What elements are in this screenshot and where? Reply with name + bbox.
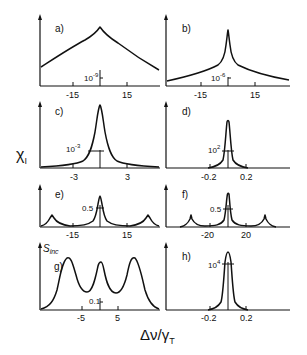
y-axis-arrow-icon	[38, 184, 42, 190]
panel-label: f)	[182, 189, 188, 200]
panel-a: a) 10-9 -15 15	[38, 14, 160, 100]
x-tick-label: -0.2	[201, 172, 217, 182]
panel-g: g) 0.1 -5 5 Sinc	[38, 242, 160, 323]
x-tick-label: -15	[66, 90, 79, 100]
x-tick-label: -15	[194, 90, 207, 100]
y-axis-arrow-icon	[38, 101, 42, 107]
panel-b: b) 10-6 -15 15	[164, 14, 290, 100]
x-tick-label: -15	[66, 230, 79, 240]
x-tick-label: 0.2	[240, 313, 253, 323]
y-axis-arrow-icon	[38, 14, 42, 20]
panel-label: a)	[55, 23, 64, 34]
x-tick-label: 15	[122, 90, 132, 100]
x-tick-label: 0.2	[240, 172, 253, 182]
panel-f: f) 0.5 -20 20	[164, 184, 290, 240]
panel-label: h)	[182, 251, 191, 262]
scale-marker: 0.5	[210, 205, 222, 214]
scale-marker: 104	[208, 259, 221, 270]
x-tick-label: -3	[70, 172, 78, 182]
curve-b	[167, 30, 289, 81]
x-tick-label: 15	[250, 90, 260, 100]
scale-marker: 10-3	[66, 143, 81, 154]
panel-label: b)	[182, 23, 191, 34]
x-tick-label: 5	[115, 313, 120, 323]
panel-label: c)	[55, 106, 63, 117]
panel-d: d) 102 -0.2 0.2	[164, 101, 290, 182]
y-axis-arrow-icon	[164, 184, 168, 190]
x-tick-label: 3	[125, 172, 130, 182]
x-tick-label: -20	[201, 230, 214, 240]
panel-label: d)	[182, 106, 191, 117]
panel-c: c) 10-3 -3 3	[38, 101, 160, 182]
scale-marker: 10-6	[211, 72, 226, 83]
x-tick-label: 15	[122, 230, 132, 240]
scale-marker: 0.5	[82, 204, 94, 213]
x-tick-label: 20	[241, 230, 251, 240]
panel-label: g)	[54, 261, 63, 272]
scale-marker: 102	[208, 144, 221, 155]
panel-label: e)	[55, 189, 64, 200]
x-tick-label: -0.2	[201, 313, 217, 323]
y-axis-arrow-icon	[164, 14, 168, 20]
y-axis-arrow-icon	[164, 242, 168, 248]
x-tick-label: -5	[77, 313, 85, 323]
y-axis-label-sinc: Sinc	[43, 243, 59, 255]
panel-h: h) 104 -0.2 0.2	[164, 242, 290, 323]
x-axis-label: Δν/γT	[140, 326, 175, 346]
scale-marker: 0.1	[89, 297, 101, 306]
y-axis-arrow-icon	[164, 101, 168, 107]
scale-marker: 10-9	[84, 72, 99, 83]
y-axis-label-chi: χI	[16, 146, 27, 166]
panel-e: e) 0.5 -15 15	[38, 184, 160, 240]
y-axis-arrow-icon	[38, 242, 42, 248]
figure: a) 10-9 -15 15 b) 10-6 -15 15 c) 10-3 -3…	[0, 0, 307, 355]
